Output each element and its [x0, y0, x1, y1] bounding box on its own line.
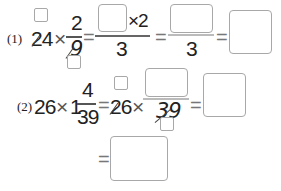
answer-box-cancel-whole-2[interactable] [114, 76, 128, 90]
fraction-denominator: 39 [77, 106, 98, 127]
problem-1-whole: 24 [31, 28, 52, 49]
fraction-numerator: 4 [82, 79, 93, 100]
times-sign: × [132, 96, 143, 117]
problem-2-whole: 26 [34, 96, 55, 117]
fraction-bar [168, 34, 214, 36]
answer-box-cancel-denominator-2[interactable] [160, 117, 174, 131]
equals-sign: = [98, 95, 110, 115]
fraction-denominator: 3 [186, 38, 197, 59]
answer-box-final-2[interactable] [110, 136, 168, 181]
times-sign: × [56, 96, 67, 117]
times-sign: × [54, 28, 65, 49]
problem-2-label: (2) [17, 100, 32, 113]
answer-box-result-1[interactable] [229, 10, 272, 54]
times-two: ×2 [128, 11, 148, 30]
problem-1-label: (1) [7, 32, 22, 45]
fraction-numerator: 2 [71, 12, 82, 33]
problem-2-whole-2: 26 [110, 96, 131, 117]
equals-sign: = [98, 149, 110, 169]
equals-sign: = [216, 27, 228, 47]
answer-box-cancel-whole-1[interactable] [34, 8, 48, 22]
equals-sign: = [190, 95, 202, 115]
equals-sign: = [155, 27, 167, 47]
answer-box-numerator-2[interactable] [170, 4, 213, 33]
answer-box-result-2[interactable] [203, 73, 246, 117]
equals-sign: = [83, 27, 95, 47]
answer-box-numerator-3[interactable] [145, 68, 188, 97]
answer-box-numerator-1[interactable] [98, 4, 127, 32]
answer-box-cancel-denominator-1[interactable] [67, 55, 81, 69]
fraction-denominator: 3 [116, 38, 127, 59]
